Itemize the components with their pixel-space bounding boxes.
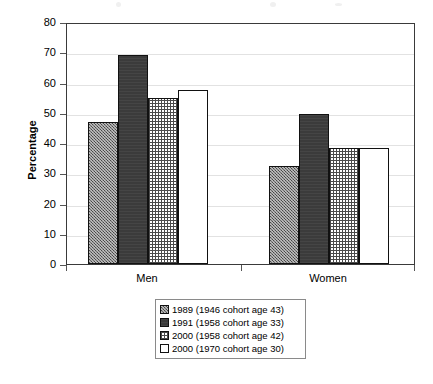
- y-tick-label: 40: [16, 138, 56, 149]
- y-tick-label: 10: [16, 229, 56, 240]
- x-tick-mark: [414, 265, 415, 271]
- x-tick-mark: [66, 265, 67, 271]
- bar: [118, 55, 148, 264]
- y-tick-label: 30: [16, 168, 56, 179]
- legend-item: 1991 (1958 cohort age 33): [160, 316, 301, 329]
- legend-item: 2000 (1970 cohort age 30): [160, 342, 301, 355]
- y-tick-label: 50: [16, 108, 56, 119]
- scan-artifact: [335, 3, 342, 6]
- bar: [178, 90, 208, 264]
- legend-label: 1991 (1958 cohort age 33): [172, 318, 284, 328]
- x-tick-mark: [241, 265, 242, 271]
- legend: 1989 (1946 cohort age 43)1991 (1958 coho…: [155, 299, 306, 359]
- bar: [88, 122, 118, 264]
- x-tick-label-women: Women: [268, 272, 388, 284]
- legend-item: 2000 (1958 cohort age 42): [160, 329, 301, 342]
- legend-label: 2000 (1958 cohort age 42): [172, 331, 284, 341]
- bar: [359, 148, 389, 264]
- y-tick-label: 80: [16, 17, 56, 28]
- legend-label: 1989 (1946 cohort age 43): [172, 305, 284, 315]
- y-tick-label: 0: [16, 259, 56, 270]
- bar-chart-figure: Percentage 01020304050607080 MenWomen 19…: [0, 0, 433, 384]
- plot-area: [66, 23, 415, 265]
- bar: [148, 98, 178, 264]
- y-tick-label: 70: [16, 47, 56, 58]
- legend-label: 2000 (1970 cohort age 30): [172, 344, 284, 354]
- bar: [269, 166, 299, 264]
- bar: [299, 114, 329, 264]
- legend-swatch-icon: [160, 318, 169, 327]
- scan-artifact: [270, 2, 276, 7]
- y-tick-label: 60: [16, 78, 56, 89]
- y-tick-label: 20: [16, 199, 56, 210]
- legend-item: 1989 (1946 cohort age 43): [160, 303, 301, 316]
- legend-swatch-icon: [160, 344, 169, 353]
- bar: [329, 148, 359, 264]
- legend-swatch-icon: [160, 305, 169, 314]
- scan-artifact: [116, 2, 121, 7]
- legend-swatch-icon: [160, 331, 169, 340]
- x-tick-label-men: Men: [87, 272, 207, 284]
